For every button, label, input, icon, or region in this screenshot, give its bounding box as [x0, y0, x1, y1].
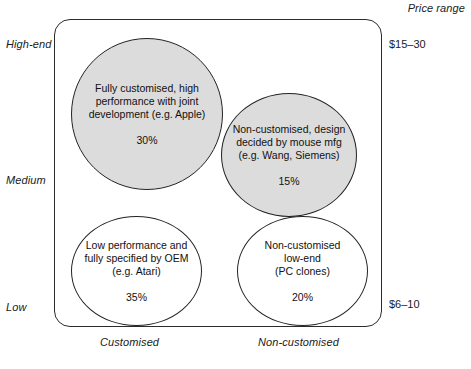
- bubble-low-performance-oem-share: 35%: [126, 291, 147, 304]
- bubble-non-customised-low-end: Non-customised low-end (PC clones) 20%: [237, 216, 368, 326]
- matrix-frame: Fully customised, high performance with …: [54, 19, 382, 327]
- price-range-title: Price range: [408, 2, 465, 14]
- bubble-low-performance-oem-text: Low performance and fully specified by O…: [79, 239, 195, 278]
- bubble-non-customised-design-text: Non-customised, design decided by mouse …: [227, 123, 352, 162]
- x-axis-tick-customised: Customised: [100, 336, 159, 348]
- bubble-non-customised-design: Non-customised, design decided by mouse …: [221, 93, 357, 217]
- bubble-non-customised-low-end-share: 20%: [292, 291, 313, 304]
- bubble-non-customised-design-share: 15%: [278, 175, 299, 188]
- price-label-low: $6–10: [389, 298, 420, 310]
- bubble-fully-customised-share: 30%: [136, 134, 157, 147]
- y-axis-tick-high-end: High-end: [6, 38, 51, 50]
- bubble-fully-customised-text: Fully customised, high performance with …: [83, 82, 212, 121]
- bubble-low-performance-oem: Low performance and fully specified by O…: [71, 216, 202, 326]
- y-axis-tick-medium: Medium: [6, 174, 46, 186]
- bubble-matrix-diagram: Price range Fully customised, high perfo…: [0, 0, 471, 369]
- price-label-high: $15–30: [389, 38, 426, 50]
- bubble-fully-customised: Fully customised, high performance with …: [71, 38, 223, 190]
- y-axis-tick-low: Low: [6, 301, 26, 313]
- bubble-non-customised-low-end-text: Non-customised low-end (PC clones): [259, 239, 347, 278]
- x-axis-tick-non-customised: Non-customised: [258, 336, 339, 348]
